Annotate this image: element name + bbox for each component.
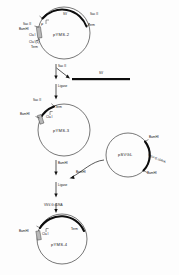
plasmid-1-label-sac2-right: Sac II (90, 13, 98, 16)
sv-fragment-bar (72, 78, 130, 80)
ligase-arrow-1-head (54, 96, 57, 100)
sv-fragment-graphic (72, 78, 130, 80)
plasmid-4-label-cla1: Cla I (42, 233, 48, 236)
plasmid-3-label-bamhi-top: BamHI (149, 136, 159, 139)
step-1-enzyme-label: Sac II (58, 65, 66, 68)
plasmid-2-label-cla1: Cla I (46, 116, 52, 119)
plasmid-2-label-sac2: Sac II (33, 99, 41, 102)
plasmid-1-tick-bamhi (35, 26, 39, 27)
plasmid-2-name: pYMS-3 (53, 129, 69, 132)
plasmid-1-label-sac2-left: Sac II (23, 23, 31, 26)
plasmid-1-label-bamhi: BamHI (19, 28, 29, 31)
plasmid-cloning-figure: SV Sac II Term Sac II BamHI Cla I Cla I(… (0, 0, 179, 275)
transfer-curve-shaft (72, 160, 104, 177)
plasmid-1-promoter-arrow (46, 20, 49, 24)
ligase-arrow-2-head (54, 194, 57, 198)
plasmid-3-tick-bamhi-top (145, 140, 149, 142)
insert-pointer-head (54, 209, 57, 213)
plasmid-4-label-insert: VSV-G cDNA (44, 204, 63, 207)
plasmid-1-region-box (36, 27, 42, 38)
step-2-enzyme-right-label: BamHI (76, 171, 86, 174)
plasmid-4-region-box (36, 231, 42, 241)
plasmid-2-label-bamhi: BamHI (20, 113, 30, 116)
step-1-arrows (54, 64, 70, 100)
bamhi-arrow-head (54, 172, 57, 176)
step-2-ligase-label: Ligase (58, 184, 67, 187)
plasmid-1-label-term-right: Term (88, 24, 95, 27)
plasmid-4-name: pYMS-4 (51, 243, 67, 246)
plasmid-1-label-cla1: Cla I (29, 34, 35, 37)
fragment-arrow-shaft (57, 68, 69, 77)
digest-arrow-head (54, 76, 57, 80)
plasmid-2-label-term: Term (55, 106, 62, 109)
plasmid-3-name: pSVGL (118, 153, 132, 156)
plasmid-1-label-cla1-1: Cla I(1) (29, 41, 39, 44)
plasmid-1-label-term-left: Term (31, 46, 38, 49)
step-2-enzyme-left-label: BamHI (58, 162, 68, 165)
plasmid-1-label-sv: SV (63, 13, 67, 16)
plasmid-4-graphic (36, 214, 87, 264)
plasmid-4-label-term: Term (71, 228, 78, 231)
plasmid-3-label-bamhi-bottom: BamHI (147, 172, 157, 175)
plasmid-1-label-promoter: P (41, 24, 43, 27)
plasmid-1-name: pYMS-2 (53, 33, 69, 36)
plasmid-4-label-bamhi: BamHI (19, 230, 29, 233)
transfer-curve-head (70, 176, 75, 179)
step-1-ligase-label: Ligase (58, 85, 67, 88)
plasmid-1-tick-sac2-left (40, 16, 43, 19)
sv-fragment-label: SV (99, 72, 103, 75)
